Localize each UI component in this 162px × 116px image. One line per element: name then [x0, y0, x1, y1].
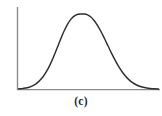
figure-container: (c): [0, 0, 162, 116]
figure-caption-label: (c): [0, 95, 162, 108]
normal-distribution-curve: [19, 14, 159, 89]
